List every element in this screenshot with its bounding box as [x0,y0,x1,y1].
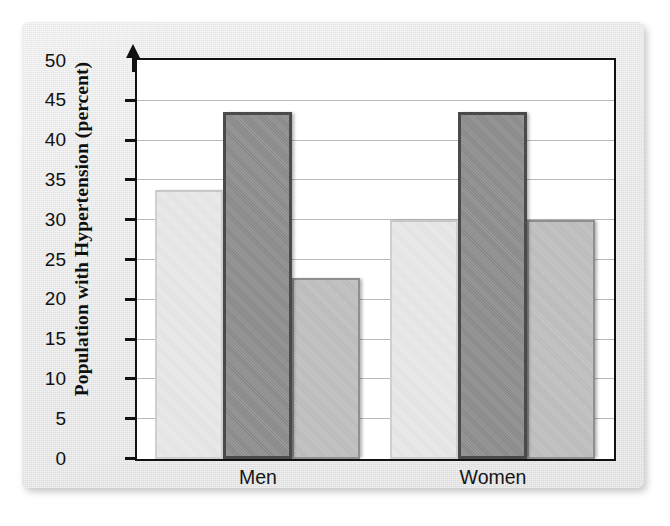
y-axis-tick-label: 25 [6,249,66,271]
y-axis-tick-label: 35 [6,169,66,191]
y-axis-tick-label: 50 [6,50,66,72]
plot-inner [137,60,614,459]
chart-screenshot: Population with Hypertension (percent) 0… [0,0,670,526]
bar-men-series-1 [155,190,223,459]
bar-texture [461,115,523,456]
bar-texture [392,222,456,457]
gridline [137,179,614,180]
y-axis-tick-label: 30 [6,209,66,231]
bar-texture [294,280,358,457]
gridline [137,140,614,141]
bar-men-series-3 [292,278,360,459]
y-axis-tick-label: 45 [6,89,66,111]
bar-texture [226,115,288,456]
bar-women-series-2 [458,112,526,459]
plot-area [135,58,616,461]
bar-texture [529,222,593,457]
y-axis-tick-label: 0 [6,448,66,470]
gridline [137,100,614,101]
bar-texture [157,192,221,457]
y-axis-tick-label: 15 [6,328,66,350]
y-axis-tick-label: 10 [6,368,66,390]
y-axis-tick-label: 40 [6,129,66,151]
bar-women-series-1 [390,220,458,459]
x-axis-label-men: Men [156,466,361,489]
y-axis-tick-label: 20 [6,288,66,310]
bar-women-series-3 [527,220,595,459]
bar-men-series-2 [223,112,291,459]
chart-panel: Population with Hypertension (percent) 0… [22,22,644,488]
y-axis-title: Population with Hypertension (percent) [71,14,93,444]
y-axis-tick-label: 5 [6,408,66,430]
x-axis-label-women: Women [391,466,596,489]
